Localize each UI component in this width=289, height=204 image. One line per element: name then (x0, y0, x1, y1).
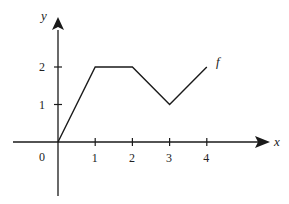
y-tick-label: 1 (39, 98, 45, 112)
axis-ticks: 123412 (39, 60, 209, 165)
x-tick-label: 1 (92, 151, 98, 165)
y-tick-label: 2 (39, 60, 45, 74)
y-axis (52, 17, 64, 196)
x-tick-label: 3 (166, 151, 172, 165)
y-axis-label: y (39, 8, 47, 23)
x-axis (13, 136, 270, 148)
origin-label: 0 (39, 150, 45, 164)
y-axis-arrow-icon (52, 17, 64, 30)
x-axis-label: x (273, 134, 280, 149)
x-tick-label: 2 (129, 151, 135, 165)
function-graph: 123412 y x f 0 (0, 0, 289, 204)
x-tick-label: 4 (203, 151, 209, 165)
curve-label: f (216, 54, 222, 69)
curve-f (58, 67, 207, 142)
